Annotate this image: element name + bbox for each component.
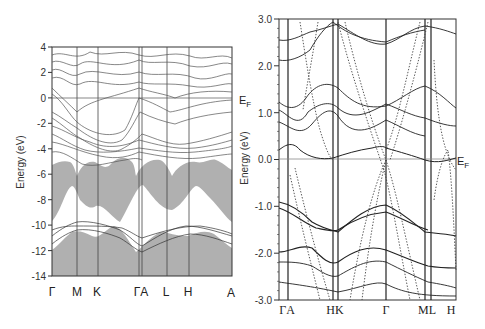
- left-kpoint-0: Γ: [49, 285, 56, 299]
- right-band-panel: 3.0 2.0 1.0 0.0 -1.0 -2.0 -3.0 Energy (e…: [239, 14, 469, 317]
- left-ytick-9: -14: [32, 271, 47, 282]
- left-ytick-1: 2: [40, 67, 46, 78]
- right-kpoint-1: HK: [326, 303, 344, 317]
- right-ytick-0: 3.0: [258, 14, 272, 25]
- left-ytick-4: -4: [37, 144, 46, 155]
- right-ytick-6: -3.0: [255, 295, 273, 306]
- left-kpoint-2: K: [93, 285, 101, 299]
- left-kpoint-6: A: [227, 286, 235, 300]
- left-ytick-0: 4: [40, 42, 46, 53]
- left-kpoint-4: L: [163, 285, 170, 299]
- right-ytick-5: -2.0: [255, 248, 273, 259]
- right-ytick-2: 1.0: [258, 108, 272, 119]
- right-ylabel: Energy (eV): [239, 131, 250, 184]
- right-ytick-4: -1.0: [255, 201, 273, 212]
- right-fermi-label: EF: [457, 155, 469, 170]
- left-ytick-3: -2: [37, 118, 46, 129]
- left-kpoint-3: ΓA: [134, 285, 149, 299]
- right-kpoint-3: ML: [418, 303, 436, 317]
- right-kpoint-2: Γ: [383, 303, 390, 317]
- right-ytick-3: 0.0: [258, 154, 272, 165]
- left-band-panel: 4 2 0 -2 -4 -6 -8 -10 -12 -14 Energy (eV…: [15, 42, 251, 300]
- left-ylabel: Energy (eV): [15, 135, 26, 188]
- left-ytick-7: -10: [32, 220, 47, 231]
- right-ytick-1: 2.0: [258, 61, 272, 72]
- left-ytick-8: -12: [32, 246, 47, 257]
- left-fermi-label: EF: [239, 94, 251, 109]
- left-kpoint-1: M: [72, 285, 82, 299]
- band-structure-figure: 4 2 0 -2 -4 -6 -8 -10 -12 -14 Energy (eV…: [0, 0, 485, 329]
- right-kpoint-4: H: [447, 303, 456, 317]
- left-ytick-6: -8: [37, 195, 46, 206]
- right-kpoint-0: ΓA: [279, 303, 295, 317]
- left-kpoint-5: H: [184, 285, 193, 299]
- left-ytick-2: 0: [40, 93, 46, 104]
- left-ytick-5: -6: [37, 169, 46, 180]
